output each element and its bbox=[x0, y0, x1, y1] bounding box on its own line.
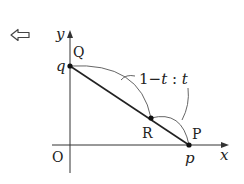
y-axis-arrowhead-icon bbox=[67, 30, 73, 38]
point-q bbox=[67, 63, 72, 68]
leader-line-2 bbox=[182, 88, 188, 120]
origin-label: O bbox=[52, 149, 63, 165]
point-q-label: Q bbox=[73, 44, 84, 60]
ratio-part1: 1− bbox=[139, 70, 161, 88]
point-p bbox=[186, 142, 191, 147]
point-p-label: P bbox=[192, 126, 201, 142]
point-q-coord: q bbox=[56, 57, 66, 75]
ratio-colon: : bbox=[167, 70, 182, 88]
ratio-t2: t bbox=[182, 70, 189, 88]
point-p-coord: p bbox=[185, 149, 195, 167]
coordinate-diagram: y x O Q q R P p 1−t : t bbox=[0, 0, 244, 184]
point-r bbox=[148, 115, 153, 120]
point-r-label: R bbox=[142, 125, 153, 141]
x-axis-label: x bbox=[220, 146, 229, 164]
ratio-label: 1−t : t bbox=[139, 70, 189, 88]
y-axis-label: y bbox=[55, 25, 65, 43]
